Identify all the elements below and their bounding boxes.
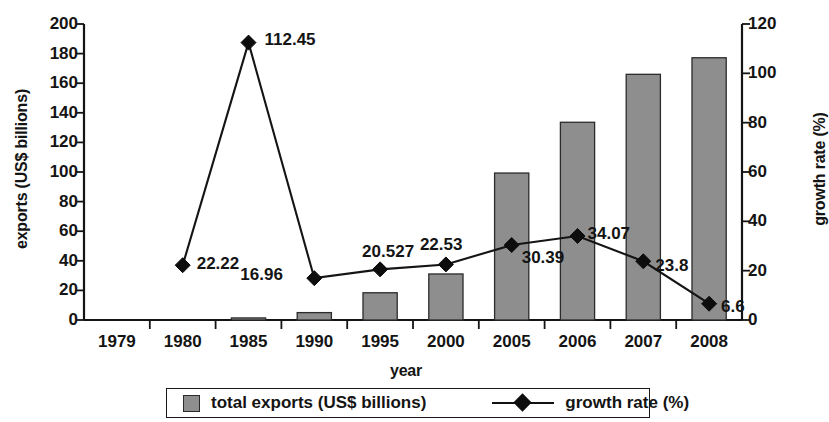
chart-legend: total exports (US$ billions) growth rate…: [166, 388, 650, 418]
legend-item-total-exports: total exports (US$ billions): [183, 389, 426, 417]
diamond-marker-1980: [175, 258, 190, 273]
data-label-1980: 22.22: [197, 255, 240, 272]
data-label-2008: 6.6: [721, 298, 745, 315]
bars-group: [231, 58, 726, 320]
bar-2008: [692, 58, 726, 320]
data-label-2007: 23.8: [655, 257, 688, 274]
bar-2000: [429, 274, 463, 320]
data-label-2006: 34.07: [588, 225, 631, 242]
legend-line-diamond-icon: [492, 396, 554, 410]
diamond-marker-1990: [307, 271, 322, 286]
bar-1995: [363, 293, 397, 320]
y-axis-right-title: growth rate (%): [811, 49, 829, 289]
diamond-marker-2000: [438, 257, 453, 272]
legend-diamond-marker-icon: [514, 393, 532, 411]
legend-label-total-exports: total exports (US$ billions): [211, 393, 426, 413]
bar-1990: [297, 313, 331, 320]
legend-item-growth-rate: growth rate (%): [492, 389, 689, 417]
data-label-1995: 20.527: [362, 243, 414, 260]
bar-1985: [231, 318, 265, 320]
legend-label-growth-rate: growth rate (%): [565, 393, 689, 413]
data-label-2000: 22.53: [420, 236, 463, 253]
bar-2006: [560, 122, 594, 320]
data-label-2005: 30.39: [522, 249, 565, 266]
data-label-1985: 112.45: [265, 31, 316, 48]
legend-square-swatch-icon: [183, 395, 200, 412]
data-label-1990: 16.96: [240, 266, 283, 283]
diamond-marker-1985: [241, 35, 256, 50]
bar-2007: [626, 74, 660, 320]
diamond-marker-1995: [373, 262, 388, 277]
